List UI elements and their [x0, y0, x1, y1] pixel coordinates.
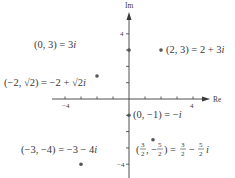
svg-text:) =: ) =	[164, 144, 176, 156]
svg-text:3: 3	[181, 141, 185, 149]
y-tick-label: 4	[120, 30, 124, 38]
svg-text:i: i	[206, 144, 209, 155]
label-3half-minus-5half-i: ( 3 2 , − 5 2 ) = 3 2 − 5 2 i	[136, 141, 209, 158]
data-point	[127, 48, 131, 52]
imaginary-axis-label: Im	[125, 1, 133, 10]
data-point	[151, 138, 155, 142]
data-point	[95, 74, 99, 78]
point-labels: (0, 3) = 3i (2, 3) = 2 + 3i (−2, √2) = −…	[4, 39, 225, 158]
data-point	[159, 48, 163, 52]
real-axis-label: Re	[213, 95, 222, 104]
data-point	[127, 114, 131, 118]
complex-plane: ReIm −444−4 (0, 3) = 3i (2, 3) = 2 + 3i …	[0, 0, 235, 178]
label-2-plus-3i: (2, 3) = 2 + 3i	[166, 44, 225, 56]
svg-text:(: (	[136, 144, 140, 156]
svg-text:2: 2	[158, 150, 162, 158]
svg-text:5: 5	[199, 141, 203, 149]
svg-text:3: 3	[141, 141, 145, 149]
svg-text:2: 2	[199, 150, 203, 158]
x-tick-label: −4	[62, 102, 70, 110]
svg-text:−: −	[189, 144, 195, 155]
imaginary-axis-arrow-icon	[127, 12, 132, 20]
svg-text:5: 5	[158, 141, 162, 149]
svg-text:, −: , −	[146, 144, 157, 155]
real-axis-arrow-icon	[202, 97, 210, 102]
svg-text:2: 2	[181, 150, 185, 158]
x-tick-label: 4	[190, 102, 194, 110]
label-neg3-minus-4i: (−3, −4) = −3 − 4i	[21, 144, 97, 156]
svg-text:2: 2	[141, 150, 145, 158]
data-point	[79, 162, 83, 166]
y-tick-label: −4	[117, 161, 125, 169]
label-neg2-plus-sqrt2i: (−2, √2) = −2 + √2i	[4, 77, 86, 89]
label-neg-i: (0, −1) = −i	[133, 109, 182, 121]
label-3i: (0, 3) = 3i	[34, 39, 76, 51]
